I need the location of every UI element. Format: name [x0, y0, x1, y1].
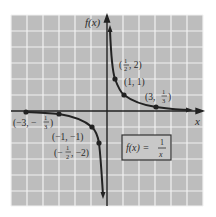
svg-text:, −2): , −2) — [71, 148, 89, 159]
point-3-third — [153, 104, 158, 109]
svg-text:): ) — [50, 118, 53, 129]
svg-text:1: 1 — [44, 114, 47, 121]
function-numerator: 1 — [160, 138, 164, 147]
svg-text:1: 1 — [66, 144, 69, 151]
point-neg1-neg1b — [89, 124, 94, 129]
point-1-1 — [121, 92, 126, 97]
svg-text:(: ( — [119, 60, 122, 71]
svg-text:, 2): , 2) — [129, 60, 142, 71]
point-half-2 — [112, 76, 117, 81]
point-neghalf-neg2 — [96, 140, 101, 145]
svg-text:2: 2 — [66, 153, 69, 160]
svg-text:1: 1 — [162, 88, 165, 95]
label-neg1-neg1: (−1, −1) — [52, 132, 83, 143]
svg-text:3: 3 — [44, 123, 47, 130]
svg-text:): ) — [168, 92, 171, 103]
function-denominator: x — [158, 150, 163, 159]
svg-text:2: 2 — [124, 65, 127, 72]
function-lhs: f(x) = — [126, 142, 149, 154]
svg-text:(3,: (3, — [145, 92, 155, 103]
svg-text:3: 3 — [162, 97, 165, 104]
function-label-box: f(x) = 1 x — [122, 135, 171, 160]
svg-text:(−: (− — [54, 148, 63, 159]
point-neg3-negthird — [23, 109, 28, 114]
x-axis-label: x — [194, 115, 200, 127]
y-axis-label: f(x) — [85, 16, 101, 29]
svg-text:(−3, −: (−3, − — [13, 118, 36, 129]
point-neg1-neg1 — [56, 111, 61, 116]
label-1-1: (1, 1) — [124, 77, 145, 88]
svg-text:1: 1 — [124, 57, 127, 64]
chart: f(x) x ( 1 2 , 2) (1, 1) (3, 1 3 ) (−3, … — [0, 0, 216, 217]
